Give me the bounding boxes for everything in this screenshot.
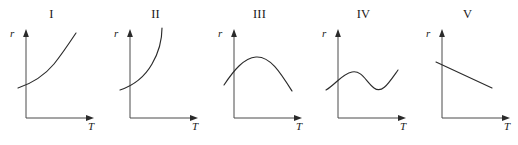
- curve-5: [436, 62, 492, 88]
- plot-panel-4: IV r T: [312, 0, 415, 145]
- plot-svg-1: [0, 0, 103, 145]
- plot-svg-5: [416, 0, 518, 145]
- plot-panel-5: V r T: [416, 0, 518, 145]
- plot-svg-4: [312, 0, 415, 145]
- figure-panel-set: I r T II r T III r T: [0, 0, 518, 145]
- x-axis-arrow-5: [502, 115, 510, 121]
- plot-svg-3: [208, 0, 311, 145]
- y-axis-arrow-2: [127, 29, 133, 37]
- curve-2: [120, 28, 162, 90]
- y-axis-arrow-3: [231, 29, 237, 37]
- curve-4: [326, 70, 398, 90]
- plot-panel-1: I r T: [0, 0, 103, 145]
- y-axis-arrow-4: [335, 29, 341, 37]
- curve-1: [18, 33, 76, 88]
- plot-panel-2: II r T: [104, 0, 207, 145]
- x-axis-arrow-2: [190, 115, 198, 121]
- y-axis-arrow-5: [439, 29, 445, 37]
- plot-svg-2: [104, 0, 207, 145]
- x-axis-arrow-3: [294, 115, 302, 121]
- y-axis-arrow-1: [23, 29, 29, 37]
- x-axis-arrow-4: [398, 115, 406, 121]
- x-axis-arrow-1: [86, 115, 94, 121]
- plot-panel-3: III r T: [208, 0, 311, 145]
